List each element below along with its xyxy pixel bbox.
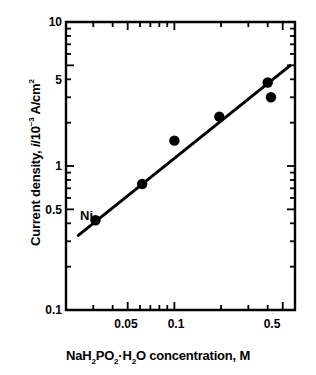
data-point-0-3 bbox=[214, 111, 224, 121]
regression-line bbox=[78, 65, 290, 235]
data-point-0-4 bbox=[263, 77, 273, 87]
data-point-0-5 bbox=[266, 92, 276, 102]
axis-frame bbox=[66, 22, 295, 310]
fit-line bbox=[78, 65, 290, 235]
data-point-0-0 bbox=[90, 215, 100, 225]
data-point-0-2 bbox=[169, 135, 179, 145]
data-point-0-1 bbox=[137, 179, 147, 189]
plot-area bbox=[0, 0, 316, 375]
axis-ticks bbox=[66, 22, 295, 310]
chart-figure: Current density, i/10−3 A/cm2 NaH2PO2·H2… bbox=[0, 0, 316, 375]
